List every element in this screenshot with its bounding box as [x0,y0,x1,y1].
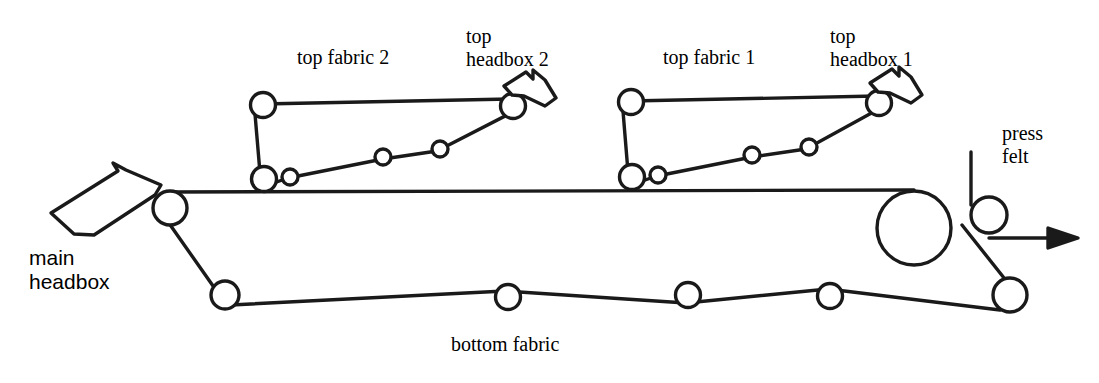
top-fabric-2-roller-small-1 [282,169,298,185]
label-bottom-fabric: bottom fabric [451,333,559,356]
bottom-roller-right [993,278,1027,312]
top-fabric-1-top-run [630,96,877,101]
bottom-roller-lower-left [211,281,239,309]
top-fabric-1-roller-lower-left [620,165,645,190]
main-headbox-body [51,163,161,235]
top-fabric-2-rollers [251,93,526,192]
machine-schematic-svg [0,0,1099,383]
top-fabric-2-roller-lower-left [252,167,277,192]
top-fabric-2-roller-small-3 [432,141,448,157]
bottom-roller-mid-1 [496,285,521,310]
top-fabric-1-roller-small-2 [744,147,760,163]
label-top-fabric-1: top fabric 1 [663,46,755,69]
top-fabric-1-roller-small-1 [650,167,666,183]
bottom-fabric-rollers [153,191,1027,312]
bottom-fabric-top-run [170,190,914,192]
label-press-felt: press felt [1002,122,1043,168]
sheet-run-arrow [989,228,1078,248]
label-top-headbox-1: top headbox 1 [830,25,913,71]
arrow-head [1048,228,1078,248]
top-fabric-2-top-run [262,99,511,104]
top-fabric-1-rollers [619,90,892,190]
press-roll-large [877,191,951,265]
bottom-roller-mid-3 [818,284,843,309]
top-fabric-2-left-run [255,114,260,173]
main-headbox-nozzle [51,163,161,235]
bottom-fabric-return-run [231,289,1000,310]
label-top-fabric-2: top fabric 2 [297,46,389,69]
label-top-headbox-2: top headbox 2 [466,25,549,71]
bottom-roller-mid-2 [676,283,701,308]
press-felt-roller [971,197,1007,233]
top-fabric-1-roller-upper-left [619,90,644,115]
top-fabric-1-left-run [623,111,628,172]
top-fabric-1-roller-small-3 [801,139,817,155]
breast-roll [153,191,187,225]
paper-machine-diagram: top fabric 2 top headbox 2 top fabric 1 … [0,0,1099,383]
bottom-fabric-left-descent [166,219,218,293]
top-fabric-2-roller-upper-left [251,93,276,118]
label-main-headbox: main headbox [29,246,110,294]
top-fabric-2-roller-small-2 [375,149,391,165]
top-fabric-2-lower-run [268,113,511,185]
